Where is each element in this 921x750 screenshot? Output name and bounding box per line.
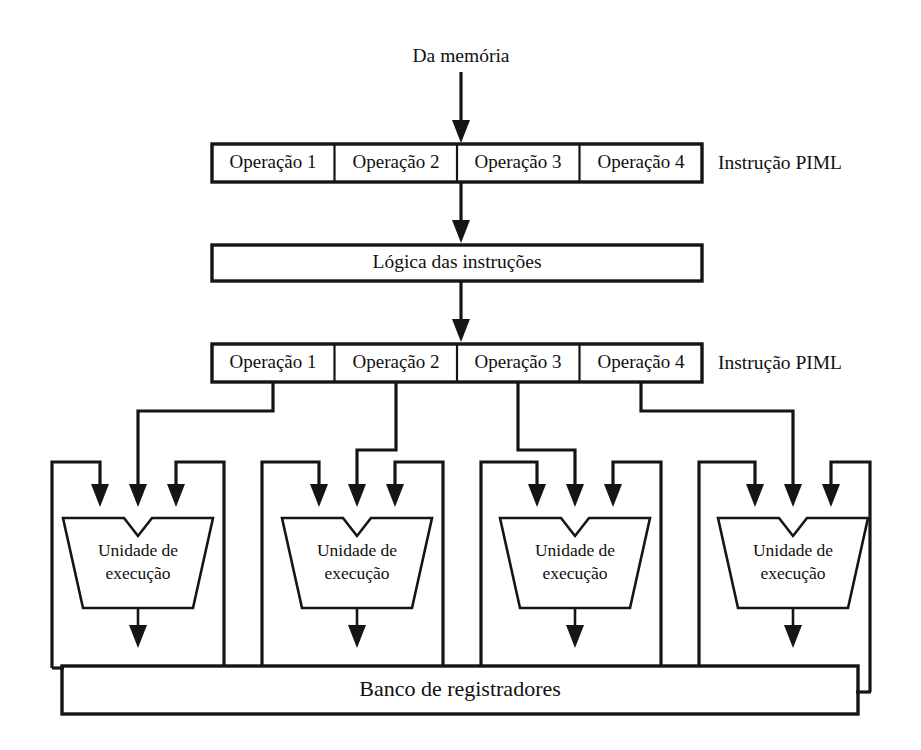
execution-unit-1: Unidade de execução bbox=[63, 518, 213, 648]
word-to-decode-arrowhead bbox=[452, 220, 470, 243]
dispatch-route-1 bbox=[129, 383, 273, 507]
dispatch-route-1-arrowhead bbox=[129, 484, 147, 507]
dispatch-route-4-arrowhead bbox=[784, 484, 802, 507]
dispatch-route-2-arrowhead bbox=[348, 484, 366, 507]
instruction-word-top-side-label: Instrução PIML bbox=[718, 152, 842, 173]
dispatch-route-4 bbox=[641, 383, 802, 507]
operand-bus-unit-3-right-arrowhead bbox=[604, 484, 622, 507]
decode-logic-label: Lógica das instruções bbox=[373, 251, 542, 272]
execution-unit-3: Unidade de execução bbox=[500, 518, 650, 648]
operand-bus-unit-2-right-arrowhead bbox=[386, 484, 404, 507]
instruction-word-bottom-cell-4: Operação 4 bbox=[597, 351, 685, 372]
operand-bus-unit-3-left-arrowhead bbox=[528, 484, 546, 507]
instruction-word-top-cell-3: Operação 3 bbox=[474, 151, 561, 172]
execution-unit-4-label-line1: Unidade de bbox=[753, 540, 833, 560]
word-to-decode-arrow bbox=[452, 183, 470, 243]
execution-unit-2-label-line2: execução bbox=[324, 563, 389, 583]
decode-logic-box: Lógica das instruções bbox=[212, 245, 702, 281]
execution-unit-2: Unidade de execução bbox=[282, 518, 432, 648]
register-file: Banco de registradores bbox=[62, 666, 858, 714]
instruction-word-bottom-side-label: Instrução PIML bbox=[718, 352, 842, 373]
execution-unit-2-label-line1: Unidade de bbox=[317, 540, 397, 560]
execution-unit-3-label-line1: Unidade de bbox=[535, 540, 615, 560]
dispatch-route-3-arrowhead bbox=[566, 484, 584, 507]
execution-unit-4-label-line2: execução bbox=[760, 563, 825, 583]
execution-unit-1-label-line1: Unidade de bbox=[98, 540, 178, 560]
operand-bus-unit-1-right-arrowhead bbox=[167, 484, 185, 507]
decode-to-word-arrow bbox=[452, 282, 470, 342]
instruction-word-top-cell-2: Operação 2 bbox=[352, 151, 439, 172]
operand-bus-unit-4-left-arrowhead bbox=[746, 484, 764, 507]
dispatch-route-3 bbox=[518, 383, 584, 507]
execution-unit-3-label-line2: execução bbox=[542, 563, 607, 583]
memory-source-label: Da memória bbox=[413, 45, 510, 66]
execution-unit-3-result-arrowhead bbox=[566, 625, 584, 648]
instruction-word-bottom-cell-2: Operação 2 bbox=[352, 351, 439, 372]
instruction-word-top-cell-1: Operação 1 bbox=[229, 151, 316, 172]
instruction-word-bottom-cell-1: Operação 1 bbox=[229, 351, 316, 372]
execution-unit-1-result-arrowhead bbox=[129, 625, 147, 648]
dispatch-route-4-path bbox=[641, 383, 793, 488]
execution-unit-1-label-line2: execução bbox=[105, 563, 170, 583]
instruction-word-top: Operação 1 Operação 2 Operação 3 Operaçã… bbox=[212, 144, 842, 182]
operand-bus-unit-4-right-arrowhead bbox=[822, 484, 840, 507]
operand-bus-unit-1-left-arrowhead bbox=[91, 484, 109, 507]
memory-source-arrowhead bbox=[452, 120, 470, 143]
register-file-label: Banco de registradores bbox=[359, 676, 561, 701]
instruction-word-bottom: Operação 1 Operação 2 Operação 3 Operaçã… bbox=[212, 344, 842, 382]
dispatch-route-2-path bbox=[357, 383, 396, 488]
decode-to-word-arrowhead bbox=[452, 319, 470, 342]
figure-root: Da memória Operação 1 Operação 2 Operaçã… bbox=[0, 0, 921, 750]
instruction-word-bottom-cell-3: Operação 3 bbox=[474, 351, 561, 372]
pipeline-diagram: Da memória Operação 1 Operação 2 Operaçã… bbox=[0, 0, 921, 750]
memory-source-group: Da memória bbox=[413, 45, 510, 143]
instruction-word-top-cell-4: Operação 4 bbox=[597, 151, 685, 172]
dispatch-route-3-path bbox=[518, 383, 575, 488]
execution-unit-2-result-arrowhead bbox=[348, 625, 366, 648]
execution-unit-4: Unidade de execução bbox=[718, 518, 868, 648]
execution-unit-4-result-arrowhead bbox=[784, 625, 802, 648]
operand-bus-unit-2-left-arrowhead bbox=[310, 484, 328, 507]
dispatch-route-1-path bbox=[138, 383, 273, 488]
